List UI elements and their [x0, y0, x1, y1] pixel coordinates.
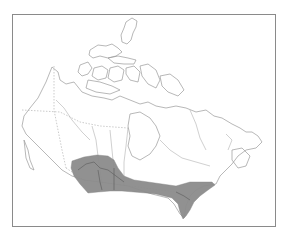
arctic-islands [78, 18, 184, 96]
canada-map [0, 0, 289, 245]
mainland [22, 67, 262, 218]
species-range [71, 155, 215, 219]
